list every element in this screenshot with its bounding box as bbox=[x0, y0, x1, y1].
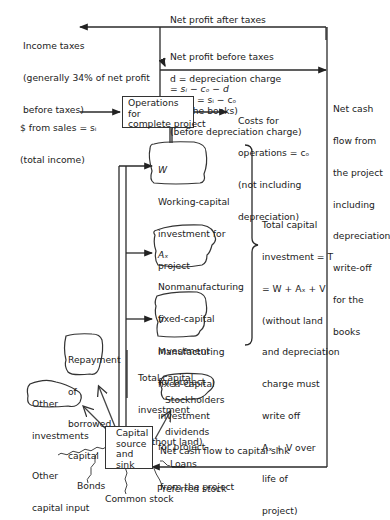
other-investments-cloud: Other investments bbox=[32, 378, 89, 452]
operations-box: Operations for complete project bbox=[122, 96, 194, 128]
loans-label: Loans bbox=[170, 459, 197, 470]
net-cash-flow-project-label: Net cash flow from the project including… bbox=[333, 83, 390, 348]
preferred-stock-label: Preferred stock bbox=[157, 484, 226, 495]
capital-source-box: Capital source and sink bbox=[105, 426, 153, 469]
sales-label: $ from sales = sᵢ (total income) bbox=[20, 102, 96, 176]
bonds-label: Bonds bbox=[77, 481, 105, 492]
common-stock-label: Common stock bbox=[105, 494, 174, 505]
net-profit-after-taxes-label: Net profit after taxes bbox=[170, 15, 266, 26]
